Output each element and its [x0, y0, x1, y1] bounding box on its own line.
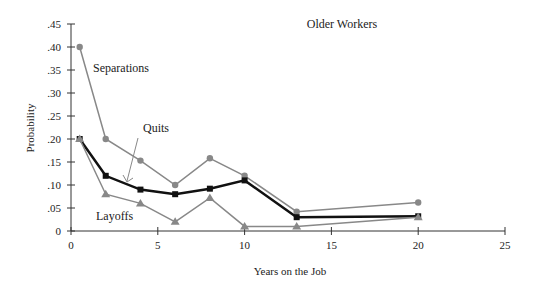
- y-tick-label: .45: [47, 18, 61, 30]
- line-chart: Older Workers 05101520250.05.10.15.20.25…: [0, 0, 536, 293]
- x-axis-label: Years on the Job: [254, 265, 327, 277]
- square-marker-icon: [242, 177, 248, 183]
- chart-container: Older Workers 05101520250.05.10.15.20.25…: [0, 0, 536, 293]
- x-tick-label: 20: [413, 239, 425, 251]
- y-tick-label: .35: [47, 64, 61, 76]
- y-tick-label: .05: [47, 202, 61, 214]
- x-tick-label: 0: [68, 239, 74, 251]
- square-marker-icon: [294, 214, 300, 220]
- triangle-marker-icon: [171, 217, 180, 225]
- y-tick-label: .40: [47, 41, 61, 53]
- circle-marker-icon: [103, 136, 109, 142]
- square-marker-icon: [103, 173, 109, 179]
- annotations: SeparationsQuitsLayoffs: [93, 61, 169, 223]
- x-tick-label: 10: [239, 239, 251, 251]
- circle-marker-icon: [207, 155, 213, 161]
- y-axis-label: Probability: [24, 103, 36, 152]
- x-tick-label: 15: [326, 239, 338, 251]
- triangle-marker-icon: [75, 135, 84, 143]
- triangle-marker-icon: [205, 193, 214, 201]
- y-tick-label: .20: [47, 133, 61, 145]
- series-label: Layoffs: [96, 209, 133, 223]
- quits-pointer-arrow: [127, 138, 138, 181]
- series-label: Separations: [93, 61, 149, 75]
- y-tick-label: .15: [47, 156, 61, 168]
- circle-marker-icon: [293, 208, 299, 214]
- y-tick-label: .10: [47, 179, 61, 191]
- circle-marker-icon: [415, 199, 421, 205]
- y-tick-label: .30: [47, 87, 61, 99]
- chart-title: Older Workers: [307, 17, 378, 31]
- x-tick-label: 5: [155, 239, 161, 251]
- y-tick-label: .25: [47, 110, 61, 122]
- triangle-marker-icon: [101, 190, 110, 198]
- square-marker-icon: [137, 187, 143, 193]
- x-tick-label: 25: [500, 239, 512, 251]
- series-label: Quits: [143, 121, 169, 135]
- circle-marker-icon: [76, 44, 82, 50]
- y-tick-label: 0: [56, 225, 62, 237]
- circle-marker-icon: [172, 182, 178, 188]
- square-marker-icon: [172, 191, 178, 197]
- square-marker-icon: [207, 186, 213, 192]
- circle-marker-icon: [137, 157, 143, 163]
